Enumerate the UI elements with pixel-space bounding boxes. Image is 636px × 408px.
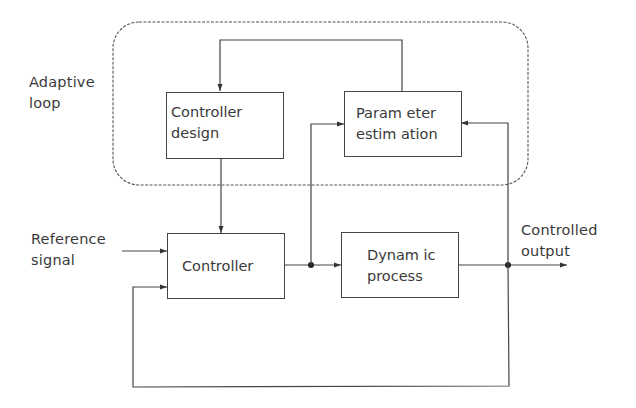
controlled-output-line2: output <box>521 241 598 262</box>
output-to-estimation-line <box>461 123 508 265</box>
controller-design-line1: Controller <box>171 102 242 123</box>
dynamic-process-line2: process <box>367 266 436 287</box>
dynamic-process-block: Dynam ic process <box>341 232 459 298</box>
controlled-output-label: Controlled output <box>521 220 598 262</box>
control-to-estimation-line <box>311 124 344 265</box>
estimate-to-design-line <box>220 40 402 91</box>
dynamic-process-line1: Dynam ic <box>367 245 436 266</box>
adaptive-loop-label-line1: Adaptive <box>29 72 95 93</box>
reference-signal-line1: Reference <box>31 229 106 250</box>
controlled-output-line1: Controlled <box>521 220 598 241</box>
adaptive-loop-label: Adaptive loop <box>29 72 95 114</box>
diagram-connections <box>0 0 636 408</box>
parameter-estimation-block: Param eter estim ation <box>344 91 462 157</box>
reference-signal-line2: signal <box>31 250 106 271</box>
controller-block: Controller <box>167 233 285 299</box>
controller-design-block: Controller design <box>166 92 284 159</box>
adaptive-loop-label-line2: loop <box>29 93 95 114</box>
controller-design-line2: design <box>171 123 242 144</box>
parameter-estimation-line1: Param eter <box>356 103 438 124</box>
reference-signal-label: Reference signal <box>31 229 106 271</box>
controller-label: Controller <box>182 256 253 277</box>
parameter-estimation-line2: estim ation <box>356 124 438 145</box>
